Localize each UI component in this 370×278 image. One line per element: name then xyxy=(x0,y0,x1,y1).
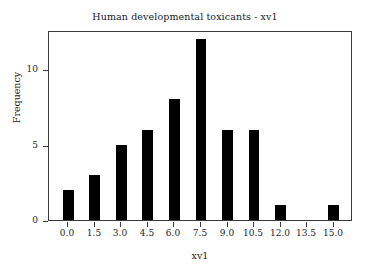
x-tick-mark xyxy=(94,222,95,227)
bar xyxy=(222,130,233,220)
bar xyxy=(116,145,127,220)
x-tick-mark xyxy=(280,222,281,227)
bar xyxy=(196,39,207,220)
x-tick-mark xyxy=(120,222,121,227)
y-tick-mark xyxy=(43,221,48,222)
chart-title: Human developmental toxicants - xv1 xyxy=(0,11,370,22)
x-tick-mark xyxy=(67,222,68,227)
plot-area xyxy=(48,31,352,221)
bar xyxy=(89,175,100,220)
x-tick-mark xyxy=(253,222,254,227)
bar xyxy=(275,205,286,220)
y-tick-label: 10 xyxy=(0,65,38,74)
bar xyxy=(142,130,153,220)
x-axis-label: xv1 xyxy=(48,250,352,261)
bar xyxy=(249,130,260,220)
bar xyxy=(328,205,339,220)
chart-page: Human developmental toxicants - xv1 Freq… xyxy=(0,0,370,278)
y-tick-label: 5 xyxy=(0,141,38,150)
bar xyxy=(169,99,180,220)
x-tick-mark xyxy=(147,222,148,227)
x-tick-mark xyxy=(333,222,334,227)
x-tick-mark xyxy=(306,222,307,227)
y-tick-label: 0 xyxy=(0,216,38,225)
bar xyxy=(63,190,74,220)
x-tick-mark xyxy=(200,222,201,227)
x-tick-label: 15.0 xyxy=(313,229,353,238)
x-tick-mark xyxy=(227,222,228,227)
x-tick-mark xyxy=(173,222,174,227)
bars-container xyxy=(49,32,351,220)
